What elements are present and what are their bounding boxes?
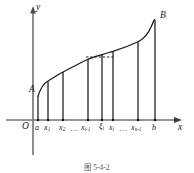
x-axis-label: x (178, 123, 182, 133)
tick-label-x2: x2 (59, 124, 65, 132)
tick-label-xi-selected: ξi (99, 123, 104, 131)
tick-base-b: b (152, 123, 156, 132)
tick-label-xi-1: xi-1 (81, 124, 90, 132)
point-b-label: B (160, 11, 166, 21)
ellipsis-left: … (70, 125, 79, 133)
tick-label-x1: x1 (44, 124, 50, 132)
tick-sub-xi-1: i-1 (85, 126, 91, 132)
partition-ordinates (38, 20, 155, 120)
tick-sub-xi-selected: i (103, 125, 104, 131)
origin-label: O (22, 122, 29, 132)
riemann-sum-figure: y x O A B a x1 x2 xi-1 ξi xi xn-1 b … … … (0, 0, 194, 173)
tick-sub-xn-1: n-1 (135, 126, 142, 132)
y-axis (30, 6, 36, 155)
function-curve (38, 20, 154, 96)
y-axis-label: y (36, 3, 40, 13)
tick-label-xi: xi (109, 124, 114, 132)
tick-base-a: a (35, 123, 39, 132)
figure-caption: 图 5-4-2 (0, 161, 194, 172)
tick-sub-xi: i (113, 126, 114, 132)
tick-sub-x2: 2 (63, 126, 66, 132)
tick-sub-x1: 1 (48, 126, 51, 132)
tick-label-xn-1: xn-1 (131, 124, 141, 132)
ellipsis-right: … (119, 125, 128, 133)
tick-label-b: b (152, 124, 156, 132)
point-a-label: A (29, 85, 35, 95)
tick-label-a: a (35, 124, 39, 132)
